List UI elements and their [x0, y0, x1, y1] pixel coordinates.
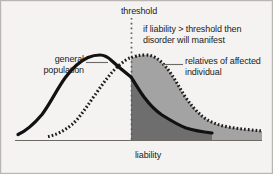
threshold-label: threshold [104, 6, 174, 17]
general-population-label: general population [18, 54, 84, 75]
x-axis-label: liability [118, 150, 178, 161]
relatives-of-affected-individual-label: relatives of affected individual [185, 56, 271, 77]
liability-threshold-figure: threshold if liability > threshold then … [0, 0, 273, 174]
threshold-rule-note: if liability > threshold then disorder w… [143, 24, 269, 45]
